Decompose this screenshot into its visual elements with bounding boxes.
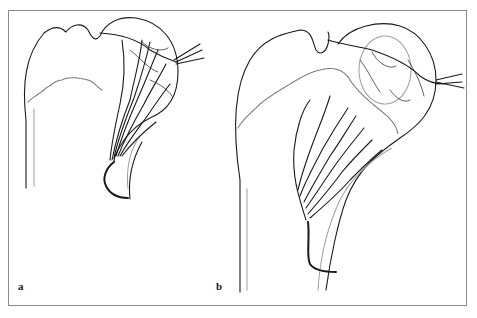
- panel-b-drawing: [236, 24, 464, 292]
- panel-label-a: a: [18, 280, 24, 292]
- panel-label-b: b: [216, 280, 222, 292]
- bone-vascular-illustration: [0, 0, 477, 318]
- panel-a-drawing: [24, 18, 204, 199]
- figure-caption: [10, 311, 475, 318]
